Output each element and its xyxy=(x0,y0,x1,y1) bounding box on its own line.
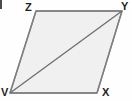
geometry-figure: Z Y V X xyxy=(0,0,132,101)
vertex-label-x: X xyxy=(102,87,109,98)
vertex-label-y: Y xyxy=(121,1,128,12)
vertex-label-z: Z xyxy=(25,2,32,13)
corner-mark xyxy=(0,0,2,9)
vertex-label-v: V xyxy=(1,87,8,98)
parallelogram-diagram xyxy=(0,0,132,101)
